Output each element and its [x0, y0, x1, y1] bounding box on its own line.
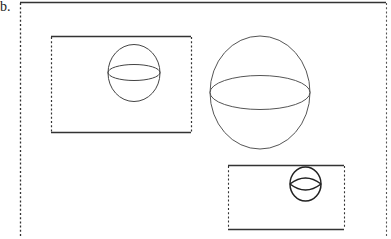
diagram-canvas — [0, 0, 391, 238]
tiny-sphere-icon — [290, 167, 321, 201]
left-rectangle — [51, 37, 192, 133]
bottom-right-rectangle — [228, 166, 345, 230]
large-sphere-icon — [210, 36, 310, 149]
small-sphere-icon — [108, 45, 160, 102]
outer-frame — [20, 3, 387, 239]
figure-b: b. — [0, 0, 391, 238]
